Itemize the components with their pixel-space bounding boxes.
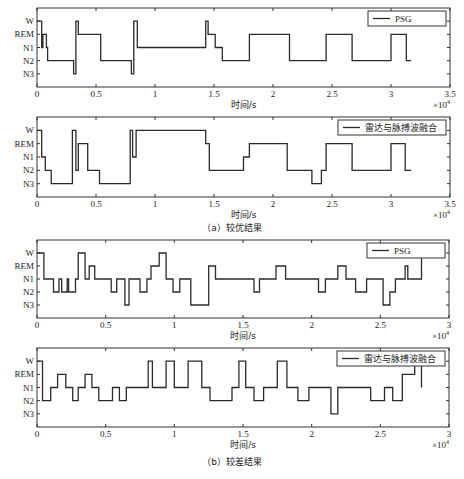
x-axis-label: 时间/s — [230, 439, 256, 450]
y-tick-label: N2 — [23, 396, 34, 406]
y-tick-label: N2 — [23, 56, 34, 66]
x-tick-label: 0.5 — [100, 320, 112, 330]
x-tick-label: 3.5 — [444, 89, 456, 99]
x-tick-label: 0 — [35, 429, 40, 439]
x-tick-label: 2.5 — [375, 320, 387, 330]
y-tick-label: N2 — [23, 165, 34, 175]
x-tick-label: 1.5 — [237, 429, 249, 439]
x-axis-label: 时间/s — [231, 209, 257, 220]
x-tick-label: 3.5 — [444, 199, 456, 209]
x-tick-label: 0.5 — [90, 199, 102, 209]
y-tick-label: N3 — [23, 300, 34, 310]
x-multiplier: ×104 — [432, 439, 449, 450]
x-tick-label: 3 — [389, 199, 394, 209]
chart-panel-4: WREMN1N2N300.511.522.53时间/s×104雷达与脉搏波融合 — [14, 348, 451, 450]
y-tick-label: N1 — [23, 274, 34, 284]
x-tick-label: 0 — [35, 199, 40, 209]
y-tick-label: W — [26, 356, 35, 366]
y-tick-label: W — [26, 248, 35, 258]
x-tick-label: 1.5 — [208, 199, 220, 209]
x-axis-label: 时间/s — [230, 330, 256, 341]
y-tick-label: N3 — [23, 69, 34, 79]
chart-panel-1: WREMN1N2N300.511.522.533.5时间/s×104PSG — [14, 8, 456, 110]
y-tick-label: W — [26, 16, 35, 26]
legend: PSG — [368, 11, 446, 26]
x-tick-label: 1 — [153, 199, 158, 209]
y-tick-label: N3 — [23, 179, 34, 189]
chart-panel-3: WREMN1N2N300.511.522.53时间/s×104PSG — [14, 240, 451, 341]
hypnogram-line — [37, 253, 422, 305]
legend-label: 雷达与脉搏波融合 — [365, 122, 437, 133]
legend: 雷达与脉搏波融合 — [337, 351, 445, 366]
x-tick-label: 2 — [309, 429, 314, 439]
y-tick-label: N1 — [23, 383, 34, 393]
x-tick-label: 3 — [447, 320, 452, 330]
x-tick-label: 1 — [172, 429, 177, 439]
y-tick-label: N3 — [23, 409, 34, 419]
y-tick-label: N1 — [23, 152, 34, 162]
y-tick-label: REM — [14, 29, 34, 39]
x-tick-label: 2.5 — [326, 199, 338, 209]
caption-a: （a）较优结果 — [202, 222, 262, 233]
x-tick-label: 2 — [309, 320, 314, 330]
x-multiplier: ×104 — [432, 330, 449, 341]
x-multiplier: ×104 — [433, 209, 450, 220]
x-tick-label: 1.5 — [237, 320, 249, 330]
x-tick-label: 0.5 — [90, 89, 102, 99]
y-tick-label: REM — [14, 369, 34, 379]
x-tick-label: 1 — [153, 89, 158, 99]
sleep-stage-figure: WREMN1N2N300.511.522.533.5时间/s×104PSGWRE… — [0, 0, 464, 479]
x-multiplier: ×104 — [433, 99, 450, 110]
x-tick-label: 1.5 — [208, 89, 220, 99]
x-tick-label: 3 — [447, 429, 452, 439]
x-tick-label: 0 — [35, 89, 40, 99]
chart-panel-2: WREMN1N2N300.511.522.533.5时间/s×104雷达与脉搏波… — [14, 117, 456, 220]
hypnogram-line — [37, 130, 411, 183]
x-axis-label: 时间/s — [231, 99, 257, 110]
legend-label: 雷达与脉搏波融合 — [364, 353, 436, 364]
x-tick-label: 2.5 — [375, 429, 387, 439]
legend: 雷达与脉搏波融合 — [338, 120, 446, 135]
x-tick-label: 0 — [35, 320, 40, 330]
y-tick-label: N2 — [23, 287, 34, 297]
legend: PSG — [367, 243, 445, 258]
y-tick-label: N1 — [23, 43, 34, 53]
x-tick-label: 2.5 — [326, 89, 338, 99]
legend-label: PSG — [395, 14, 412, 24]
x-tick-label: 1 — [172, 320, 177, 330]
y-tick-label: REM — [14, 139, 34, 149]
x-tick-label: 2 — [271, 89, 276, 99]
caption-b: （b）较差结果 — [202, 456, 262, 467]
x-tick-label: 0.5 — [100, 429, 112, 439]
y-tick-label: REM — [14, 261, 34, 271]
x-tick-label: 2 — [271, 199, 276, 209]
x-tick-label: 3 — [389, 89, 394, 99]
hypnogram-line — [37, 361, 422, 414]
legend-label: PSG — [394, 246, 411, 256]
y-tick-label: W — [26, 125, 35, 135]
hypnogram-line — [37, 21, 411, 74]
